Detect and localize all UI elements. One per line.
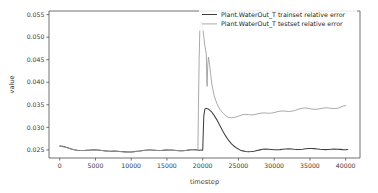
x-axis-label: timestep bbox=[190, 178, 219, 186]
x-tick-label: 0 bbox=[58, 162, 62, 169]
chart-legend: Plant.WaterOut_T trainset relative error… bbox=[199, 9, 357, 31]
x-tick-label: 5000 bbox=[88, 162, 104, 169]
x-tick-label: 35000 bbox=[300, 162, 320, 169]
x-tick-label: 20000 bbox=[193, 162, 213, 169]
legend-label-1: Plant.WaterOut_T testset relative error bbox=[221, 20, 343, 28]
y-tick-label: 0.035 bbox=[27, 101, 45, 108]
y-tick-label: 0.045 bbox=[27, 56, 45, 63]
x-tick-label: 10000 bbox=[121, 162, 141, 169]
y-axis-label: value bbox=[8, 75, 16, 93]
x-tick-label: 40000 bbox=[336, 162, 356, 169]
x-tick-label: 25000 bbox=[229, 162, 249, 169]
line-chart-canvas: 0500010000150002000025000300003500040000… bbox=[0, 0, 378, 193]
axes-frame bbox=[49, 11, 360, 158]
legend-label-0: Plant.WaterOut_T trainset relative error bbox=[221, 11, 346, 19]
y-axis-ticks: 0.0250.0300.0350.0400.0450.0500.055 bbox=[27, 11, 49, 153]
plot-background bbox=[49, 11, 360, 158]
y-tick-label: 0.050 bbox=[27, 33, 45, 40]
x-tick-label: 30000 bbox=[264, 162, 284, 169]
x-tick-label: 15000 bbox=[157, 162, 177, 169]
chart-figure: 0500010000150002000025000300003500040000… bbox=[0, 0, 378, 193]
x-axis-ticks: 0500010000150002000025000300003500040000 bbox=[58, 158, 356, 169]
y-tick-label: 0.055 bbox=[27, 11, 45, 18]
y-tick-label: 0.025 bbox=[27, 146, 45, 153]
y-tick-label: 0.030 bbox=[27, 124, 45, 131]
y-tick-label: 0.040 bbox=[27, 78, 45, 85]
